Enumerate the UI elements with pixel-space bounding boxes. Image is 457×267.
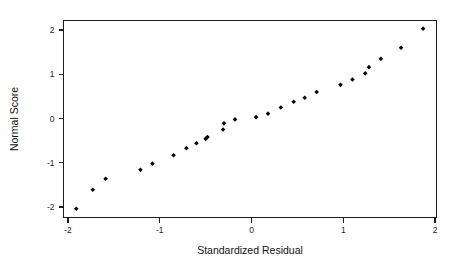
plot-frame <box>64 21 437 218</box>
x-tick-label: 1 <box>341 225 346 235</box>
data-point <box>363 71 368 76</box>
y-tick-label: 2 <box>50 25 55 35</box>
x-axis-ticks <box>68 218 435 223</box>
data-point <box>421 26 426 31</box>
chart-canvas: -2-1012 -2-1012 Standardized Residual No… <box>0 0 457 267</box>
y-axis-tick-labels: -2-1012 <box>47 25 55 212</box>
data-point <box>279 105 284 110</box>
data-point <box>314 90 319 95</box>
x-axis-title: Standardized Residual <box>197 244 303 256</box>
data-point <box>233 117 238 122</box>
y-axis-ticks <box>59 30 64 207</box>
x-tick-label: -1 <box>156 225 164 235</box>
x-tick-label: 0 <box>249 225 254 235</box>
data-point <box>171 153 176 158</box>
y-axis-title: Normal Score <box>8 87 20 151</box>
data-point <box>266 111 271 116</box>
data-point <box>194 141 199 146</box>
data-point <box>222 121 227 126</box>
y-tick-label: 1 <box>50 69 55 79</box>
data-point <box>150 161 155 166</box>
data-point <box>367 65 372 70</box>
normal-probability-plot: -2-1012 -2-1012 Standardized Residual No… <box>0 0 457 267</box>
data-point <box>350 77 355 82</box>
scatter-points-layer <box>74 26 425 211</box>
data-point <box>302 95 307 100</box>
data-point <box>291 99 296 104</box>
data-point <box>221 127 226 132</box>
y-tick-label: -1 <box>47 158 55 168</box>
data-point <box>184 146 189 151</box>
x-tick-label: -2 <box>64 225 72 235</box>
x-axis-tick-labels: -2-1012 <box>64 225 437 235</box>
x-tick-label: 2 <box>433 225 438 235</box>
y-tick-label: -2 <box>47 202 55 212</box>
data-point <box>379 56 384 61</box>
data-point <box>103 176 108 181</box>
data-point <box>254 115 259 120</box>
y-tick-label: 0 <box>50 114 55 124</box>
data-point <box>138 168 143 173</box>
data-point <box>74 206 79 211</box>
data-point <box>90 187 95 192</box>
data-point <box>399 45 404 50</box>
data-point <box>338 83 343 88</box>
